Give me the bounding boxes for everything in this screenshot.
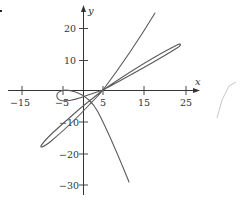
y-axis-arrow-icon [81, 5, 86, 12]
y-axis-label: y [87, 5, 94, 16]
chart-figure: x −15 −5 5 15 25 y 20 10 −10 −20 −30 [0, 0, 243, 198]
x-axis-arrow-icon [193, 88, 200, 93]
y-tick-label: 20 [64, 23, 76, 34]
x-tick-label: −15 [10, 97, 30, 108]
curve-upper-branch [103, 13, 155, 90]
x-axis-label: x [195, 76, 201, 87]
x-tick-label: 25 [180, 97, 192, 108]
y-tick-label: 10 [64, 55, 76, 66]
x-tick-label: 15 [138, 97, 150, 108]
y-tick-label: −30 [59, 180, 79, 191]
x-tick-label: 5 [100, 97, 106, 108]
y-tick-label: −20 [59, 149, 79, 160]
x-tick-label: −5 [55, 97, 69, 108]
curve-upper-right-loop [103, 44, 181, 90]
stray-pencil-mark [217, 82, 236, 118]
x-axis: x −15 −5 5 15 25 [8, 76, 201, 108]
stray-dot [0, 10, 2, 12]
